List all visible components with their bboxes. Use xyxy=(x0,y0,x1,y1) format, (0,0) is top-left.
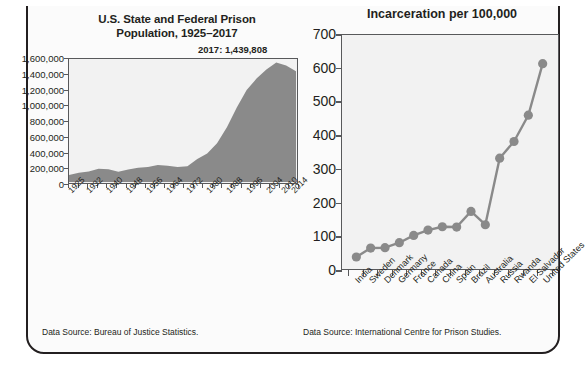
right-chart-data-point xyxy=(423,225,432,234)
right-chart-data-point xyxy=(352,252,361,261)
right-chart-data-point xyxy=(366,243,375,252)
left-chart-y-tick-label: 400,000 xyxy=(30,147,64,158)
right-chart-title-line2: Incarceration per 100,000 xyxy=(367,7,517,21)
left-chart-y-tick-label: 1,000,000 xyxy=(22,100,64,111)
right-chart-data-point xyxy=(495,154,504,163)
incarceration-rate-line-series xyxy=(342,35,557,268)
right-chart-panel: International Rates of Incarceration per… xyxy=(300,0,582,332)
top-clip-mask xyxy=(0,0,582,6)
right-chart-y-tick-label: 500 xyxy=(313,93,336,109)
left-chart-y-tick-label: 1,400,000 xyxy=(22,68,64,79)
left-chart-panel: U.S. State and Federal Prison Population… xyxy=(0,12,312,222)
right-chart-data-point xyxy=(395,238,404,247)
right-chart-plot-area xyxy=(341,34,559,270)
right-chart-x-axis-labels: IndiaSwedenDenmarkGermanyFranceCanadaChi… xyxy=(341,278,571,334)
right-chart-data-point xyxy=(481,220,490,229)
right-chart-y-tick-label: 300 xyxy=(313,161,336,177)
right-chart-y-tick-label: 200 xyxy=(313,195,336,211)
right-chart-y-tick-label: 0 xyxy=(328,262,336,278)
left-chart-plot-area xyxy=(68,58,298,184)
right-chart-y-axis-labels: 7006005004003002001000 xyxy=(300,34,336,270)
right-chart-y-tick-label: 100 xyxy=(313,228,336,244)
left-chart-y-axis-labels: 1,600,0001,400,0001,200,0001,000,000800,… xyxy=(0,58,64,184)
right-chart-data-point xyxy=(538,59,547,68)
right-chart-x-tick xyxy=(348,270,349,276)
right-chart-y-tick-label: 600 xyxy=(313,60,336,76)
prison-population-area-series xyxy=(69,59,296,182)
left-chart-source: Data Source: Bureau of Justice Statistic… xyxy=(42,327,198,337)
right-chart-data-point xyxy=(524,111,533,120)
left-chart-x-axis-labels: 1925193219401948195619641972198019881996… xyxy=(68,188,298,228)
left-chart-y-tick-label: 600,000 xyxy=(30,131,64,142)
right-chart-data-point xyxy=(380,243,389,252)
left-chart-y-tick-label: 200,000 xyxy=(30,163,64,174)
right-chart-data-point xyxy=(438,222,447,231)
right-chart-data-point xyxy=(409,231,418,240)
left-chart-y-tick-label: 1,200,000 xyxy=(22,84,64,95)
left-chart-title-line1: U.S. State and Federal Prison xyxy=(98,13,256,25)
right-chart-data-point xyxy=(452,222,461,231)
left-chart-y-tick-label: 800,000 xyxy=(30,116,64,127)
left-chart-annotation: 2017: 1,439,808 xyxy=(198,44,267,55)
right-chart-y-tick-label: 700 xyxy=(313,26,336,42)
right-chart-data-point xyxy=(509,137,518,146)
left-chart-title: U.S. State and Federal Prison Population… xyxy=(52,12,302,40)
left-chart-y-tick-label: 1,600,000 xyxy=(22,53,64,64)
right-chart-data-point xyxy=(466,207,475,216)
right-chart-y-tick-label: 400 xyxy=(313,127,336,143)
right-chart-source: Data Source: International Centre for Pr… xyxy=(303,327,501,337)
left-chart-title-line2: Population, 1925–2017 xyxy=(116,27,237,39)
